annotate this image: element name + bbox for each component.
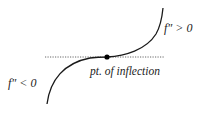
label-concave-down: f″ < 0 bbox=[8, 76, 36, 90]
label-concave-up: f″ > 0 bbox=[164, 21, 192, 35]
inflection-point bbox=[104, 54, 109, 59]
inflection-diagram: f″ > 0 f″ < 0 pt. of inflection bbox=[0, 0, 204, 114]
label-inflection-point: pt. of inflection bbox=[89, 65, 160, 78]
